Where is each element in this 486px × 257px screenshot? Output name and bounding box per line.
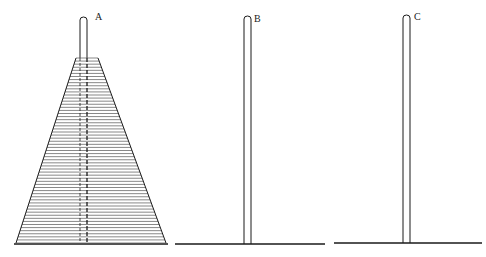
peg-c xyxy=(403,15,410,243)
tower-of-hanoi-diagram xyxy=(0,0,486,257)
peg-label-b: B xyxy=(254,13,261,24)
peg-b xyxy=(244,16,251,244)
peg-a xyxy=(80,17,87,58)
peg-label-c: C xyxy=(414,11,421,22)
peg-label-a: A xyxy=(95,11,102,22)
